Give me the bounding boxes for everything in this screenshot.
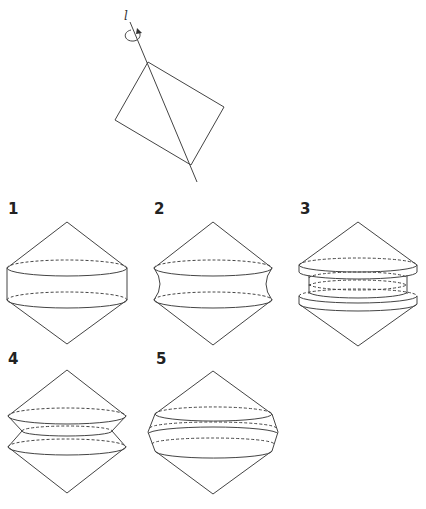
option-5[interactable]: 5 [148, 350, 278, 494]
option-number: 3 [300, 200, 310, 218]
axis-label: l [124, 9, 128, 23]
diagram-canvas: l 1 2 3 [0, 0, 426, 509]
rotation-figure: l [115, 9, 224, 182]
option-2[interactable]: 2 [154, 200, 272, 345]
option-4[interactable]: 4 [8, 350, 126, 493]
option-1[interactable]: 1 [7, 200, 127, 344]
option-number: 5 [156, 350, 166, 368]
arrowhead-icon [136, 28, 142, 34]
axis-l [130, 22, 197, 182]
option-number: 2 [154, 200, 164, 218]
option-3[interactable]: 3 [299, 200, 417, 346]
option-number: 4 [8, 350, 18, 368]
option-number: 1 [8, 200, 18, 218]
rectangle [115, 62, 224, 165]
